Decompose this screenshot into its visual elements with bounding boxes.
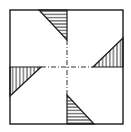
pinwheel-diagram [0,0,131,132]
